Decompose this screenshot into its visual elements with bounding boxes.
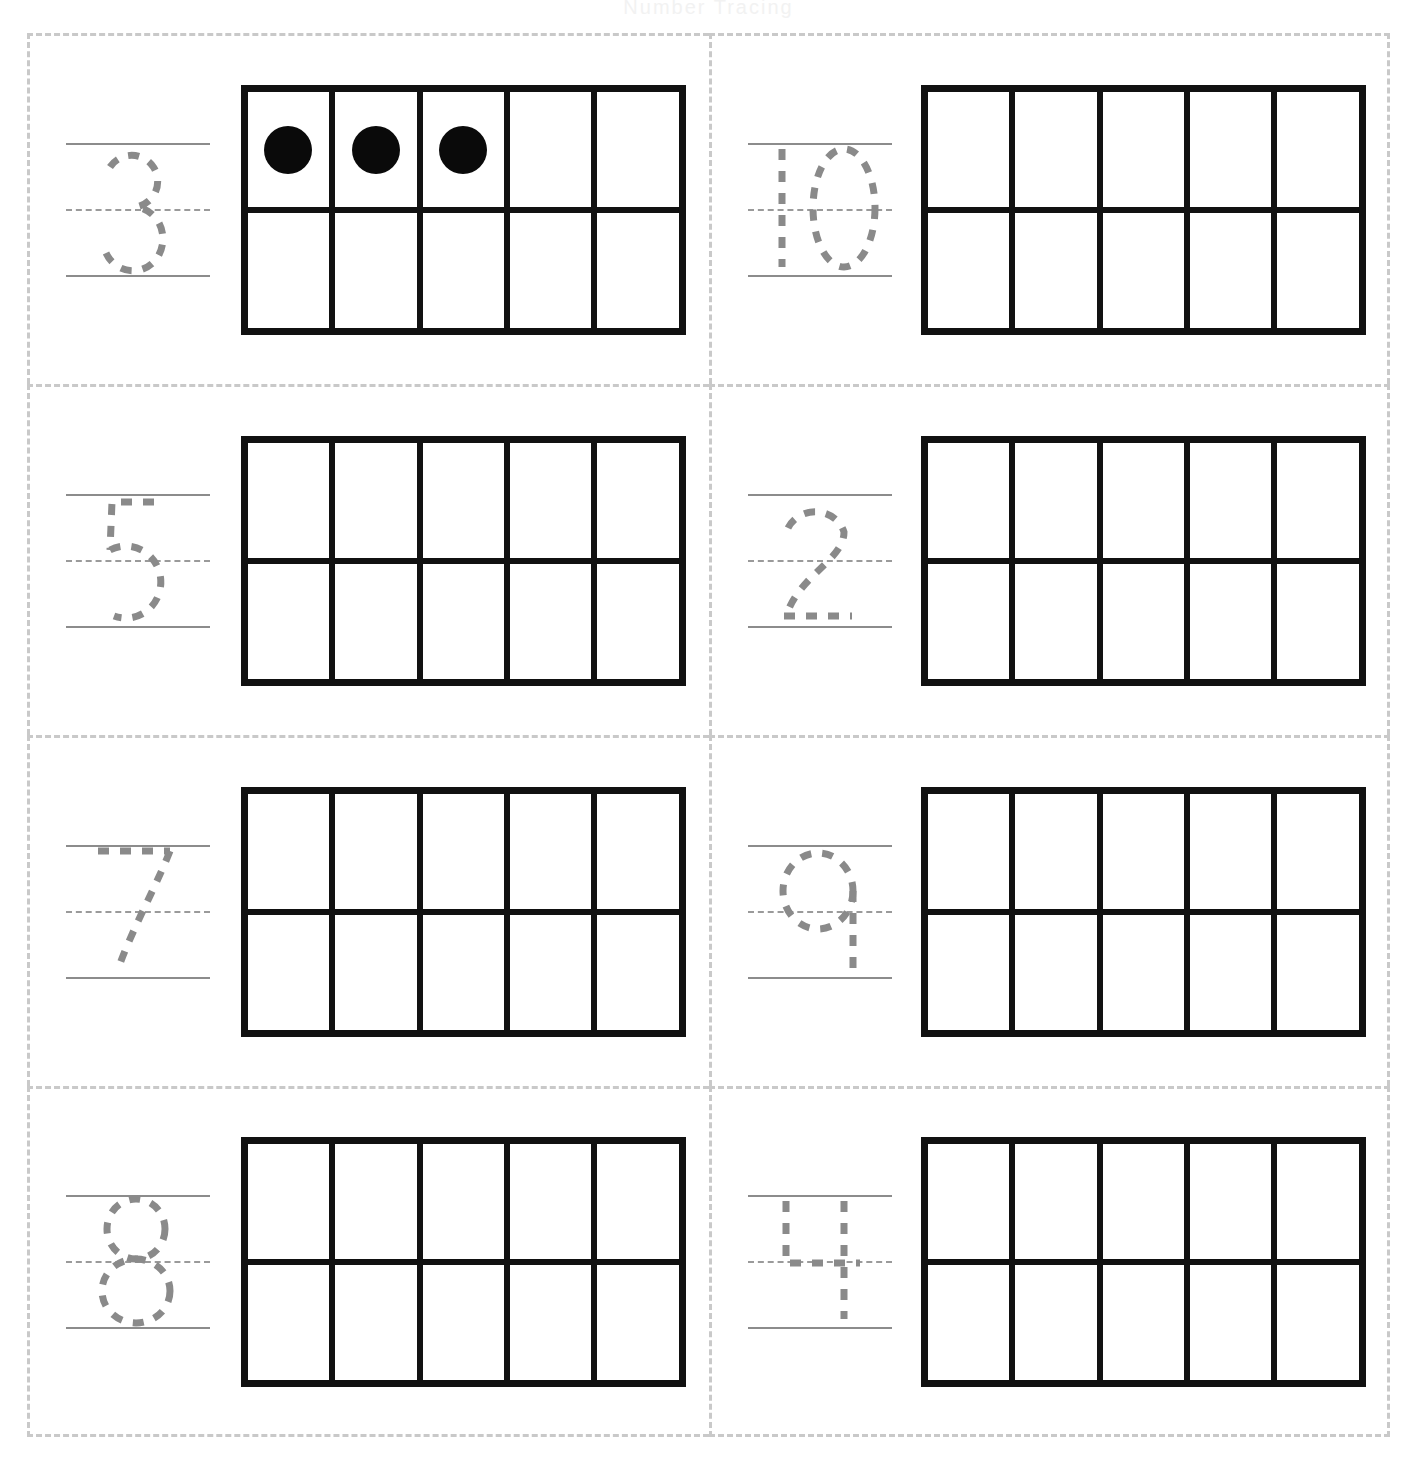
ten-frame-cell[interactable] [1190,92,1271,207]
ten-frame-cell[interactable] [1015,92,1096,207]
ten-frame-cell[interactable] [248,92,329,207]
ten-frame[interactable] [921,787,1366,1037]
ten-frame[interactable] [241,1137,686,1387]
ten-frame-cell[interactable] [928,1265,1009,1380]
ten-frame-cell[interactable] [1277,1265,1358,1380]
number-tracing-zone[interactable]: 10 [740,125,900,295]
ten-frame-cell[interactable] [248,1265,329,1380]
ten-frame-cell[interactable] [1190,794,1271,909]
ten-frame-cell[interactable] [597,1144,678,1259]
ten-frame-cell[interactable] [1015,1144,1096,1259]
ten-frame-cell[interactable] [928,92,1009,207]
ten-frame-cell[interactable] [1015,794,1096,909]
ten-frame-cell[interactable] [928,915,1009,1030]
ten-frame[interactable] [241,436,686,686]
number-tracing-zone[interactable]: 7 [58,827,218,997]
ten-frame-cell[interactable] [1015,443,1096,558]
ten-frame-cell[interactable] [335,1265,416,1380]
ten-frame-cell[interactable] [928,794,1009,909]
ten-frame-cell[interactable] [597,564,678,679]
ten-frame-cell[interactable] [248,443,329,558]
ten-frame-cell[interactable] [335,213,416,328]
ten-frame-cell[interactable] [597,1265,678,1380]
ten-frame-cell[interactable] [1190,443,1271,558]
ten-frame-cell[interactable] [423,92,504,207]
ten-frame-cell[interactable] [423,213,504,328]
ten-frame-cell[interactable] [597,794,678,909]
ten-frame-cell[interactable] [1277,92,1358,207]
ten-frame-cell[interactable] [928,443,1009,558]
ten-frame-cell[interactable] [423,443,504,558]
number-label: 5 [58,476,59,477]
ten-frame-cell[interactable] [597,443,678,558]
ten-frame-cell[interactable] [335,794,416,909]
ten-frame-cell[interactable] [1015,915,1096,1030]
ten-frame-cell[interactable] [248,213,329,328]
ten-frame-cell[interactable] [510,92,591,207]
ten-frame-cell[interactable] [928,564,1009,679]
ten-frame-cell[interactable] [1103,564,1184,679]
ten-frame-cell[interactable] [248,915,329,1030]
ten-frame-cell[interactable] [510,443,591,558]
ten-frame-cell[interactable] [335,564,416,679]
number-tracing-zone[interactable]: 4 [740,1177,900,1347]
ten-frame-cell[interactable] [597,213,678,328]
ten-frame-cell[interactable] [1277,213,1358,328]
ten-frame-wrapper [900,436,1388,686]
ten-frame[interactable] [241,85,686,335]
ten-frame-cell[interactable] [335,915,416,1030]
ten-frame-cell[interactable] [1015,213,1096,328]
number-tracing-zone[interactable]: 8 [58,1177,218,1347]
ten-frame-cell[interactable] [1277,794,1358,909]
ten-frame[interactable] [921,85,1366,335]
ten-frame-cell[interactable] [335,443,416,558]
ten-frame-cell[interactable] [1277,564,1358,679]
ten-frame-cell[interactable] [423,1144,504,1259]
ten-frame-cell[interactable] [510,1144,591,1259]
ten-frame-cell[interactable] [423,1265,504,1380]
ten-frame-cell[interactable] [423,915,504,1030]
problem-cell: 3 [27,33,709,384]
ten-frame[interactable] [241,787,686,1037]
ten-frame-cell[interactable] [248,794,329,909]
ten-frame-cell[interactable] [335,92,416,207]
ten-frame-cell[interactable] [1190,213,1271,328]
ten-frame-cell[interactable] [928,1144,1009,1259]
ten-frame-cell[interactable] [510,794,591,909]
ten-frame-cell[interactable] [1015,564,1096,679]
number-tracing-zone[interactable]: 3 [58,125,218,295]
ten-frame[interactable] [921,1137,1366,1387]
ten-frame-cell[interactable] [1103,915,1184,1030]
ten-frame-cell[interactable] [1103,1265,1184,1380]
ten-frame-cell[interactable] [1103,1144,1184,1259]
ten-frame-cell[interactable] [1103,794,1184,909]
ten-frame-cell[interactable] [335,1144,416,1259]
ten-frame-cell[interactable] [1190,915,1271,1030]
ten-frame-cell[interactable] [510,915,591,1030]
ten-frame-cell[interactable] [928,213,1009,328]
ten-frame-cell[interactable] [248,564,329,679]
dashed-number-9-icon [740,839,900,985]
ten-frame-cell[interactable] [597,915,678,1030]
ten-frame-cell[interactable] [248,1144,329,1259]
ten-frame-cell[interactable] [423,794,504,909]
ten-frame-cell[interactable] [423,564,504,679]
ten-frame-cell[interactable] [510,213,591,328]
ten-frame-cell[interactable] [1015,1265,1096,1380]
ten-frame-cell[interactable] [1190,1144,1271,1259]
ten-frame-cell[interactable] [1190,564,1271,679]
ten-frame-cell[interactable] [1277,1144,1358,1259]
ten-frame-cell[interactable] [510,564,591,679]
ten-frame-cell[interactable] [1103,92,1184,207]
ten-frame-cell[interactable] [597,92,678,207]
ten-frame[interactable] [921,436,1366,686]
number-tracing-zone[interactable]: 2 [740,476,900,646]
ten-frame-cell[interactable] [1277,443,1358,558]
ten-frame-cell[interactable] [1103,213,1184,328]
ten-frame-cell[interactable] [1190,1265,1271,1380]
ten-frame-cell[interactable] [1103,443,1184,558]
number-tracing-zone[interactable]: 5 [58,476,218,646]
ten-frame-cell[interactable] [510,1265,591,1380]
ten-frame-cell[interactable] [1277,915,1358,1030]
number-tracing-zone[interactable]: 9 [740,827,900,997]
